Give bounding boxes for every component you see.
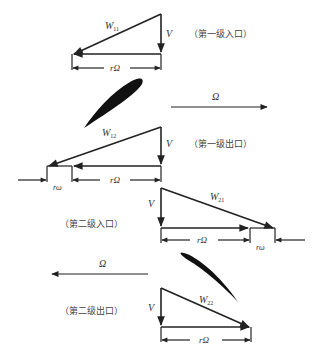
w22-label: W22 [199, 294, 213, 306]
omega-label: Ω [212, 91, 219, 102]
stage1-outlet-caption: （第一级出口） [189, 138, 252, 149]
stage2-inlet-caption: （第二级入口） [60, 218, 123, 229]
w11-label: W11 [105, 20, 119, 32]
stage1-inlet-triangle: W11 V rΩ （第一级入口） [72, 14, 252, 73]
r-omega-label: rΩ [197, 235, 208, 245]
r-omega-label: rΩ [110, 175, 121, 185]
v-label: V [148, 198, 156, 209]
rotation-arrow-right: Ω [171, 91, 267, 107]
stage2-outlet-triangle: W22 V rΩ （第二级出口） [60, 288, 251, 345]
r-omega-label: rΩ [110, 63, 121, 73]
stage1-outlet-triangle: W12 V rΩ rω （第一级出口） [18, 127, 252, 192]
rotation-arrow-left: Ω [52, 258, 148, 274]
first-stage-blade [84, 78, 143, 128]
v-label: V [166, 138, 174, 149]
r-small-omega-label: rω [256, 243, 265, 252]
w12-label: W12 [102, 127, 116, 139]
stage1-inlet-caption: （第一级入口） [189, 28, 252, 39]
v-label: V [148, 302, 156, 313]
velocity-triangle-diagram: W11 V rΩ （第一级入口） Ω W12 V rΩ rω （第一级出口） [0, 0, 317, 359]
r-small-omega-label: rω [53, 183, 62, 192]
stage2-outlet-caption: （第二级出口） [60, 305, 123, 316]
v-label: V [166, 28, 174, 39]
w21-label: W21 [210, 191, 224, 203]
stage2-inlet-triangle: W21 V rΩ rω （第二级入口） [60, 188, 305, 252]
omega-label: Ω [99, 258, 106, 269]
r-omega-label: rΩ [199, 335, 210, 345]
relative-velocity-arrow [74, 14, 161, 54]
second-stage-blade [181, 252, 238, 302]
